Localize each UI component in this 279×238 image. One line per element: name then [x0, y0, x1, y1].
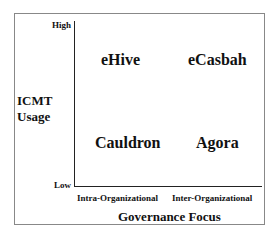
- y-axis-line: [74, 21, 75, 187]
- x-left-label: Intra-Organizational: [77, 193, 158, 203]
- quadrant-bottom-right: Agora: [196, 134, 239, 152]
- quadrant-top-left: eHive: [101, 51, 140, 69]
- y-axis-title-line1: ICMT: [17, 93, 52, 109]
- x-axis-line: [74, 186, 262, 187]
- y-high-label: High: [52, 20, 71, 30]
- y-low-label: Low: [54, 180, 71, 190]
- y-axis-title: ICMT Usage: [17, 93, 52, 125]
- y-axis-title-line2: Usage: [17, 109, 52, 125]
- quadrant-bottom-left: Cauldron: [95, 134, 161, 152]
- x-axis-title: Governance Focus: [118, 209, 221, 225]
- x-right-label: Inter-Organizational: [172, 193, 252, 203]
- quadrant-top-right: eCasbah: [188, 51, 247, 69]
